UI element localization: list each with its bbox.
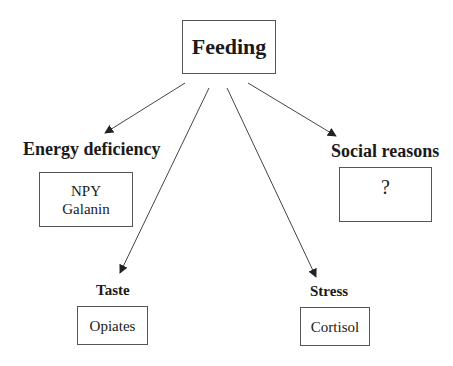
stress-box: Cortisol — [300, 307, 370, 346]
stress-label: Stress — [310, 283, 348, 300]
arrow-to-social — [248, 83, 336, 136]
stress-box-line-1: Cortisol — [311, 318, 359, 336]
social-box: ? — [339, 167, 432, 222]
energy-box: NPY Galanin — [39, 172, 133, 227]
root-box: Feeding — [182, 20, 276, 74]
taste-box: Opiates — [77, 306, 148, 345]
social-label: Social reasons — [331, 141, 439, 162]
taste-label: Taste — [96, 282, 130, 299]
energy-box-line-2: Galanin — [62, 200, 109, 218]
taste-box-line-1: Opiates — [90, 317, 136, 335]
arrow-to-energy — [105, 83, 185, 133]
root-label: Feeding — [192, 34, 267, 60]
energy-label: Energy deficiency — [23, 139, 160, 160]
social-box-line-1: ? — [381, 176, 390, 199]
energy-box-line-1: NPY — [71, 182, 101, 200]
